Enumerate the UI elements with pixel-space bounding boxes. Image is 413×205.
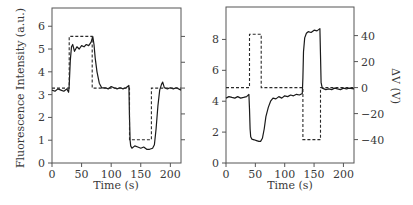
y-tick-label: 0 (212, 157, 219, 170)
x-tick-label: 200 (333, 168, 354, 181)
y-tick-label: 8 (212, 33, 219, 46)
right-y-ticks: 02468 (212, 33, 226, 170)
right-x-axis-label: Time (s) (267, 179, 313, 192)
y-tick-label: 0 (38, 157, 45, 170)
left-y-axis-label: Fluorescence Intensity (a.u.) (14, 8, 27, 168)
left-x-axis-label: Time (s) (93, 179, 139, 192)
y-tick-label: 4 (38, 66, 45, 79)
y-tick-label: 2 (212, 126, 219, 139)
right-y2-axis-label: ΔV (V) (389, 68, 402, 104)
y-tick-label: 1 (38, 134, 45, 147)
fluorescence-trace-line (52, 37, 181, 150)
y-tick-label: 3 (38, 89, 45, 102)
y-tick-label: 4 (212, 95, 219, 108)
right-y2-ticks: −40−2002040 (354, 30, 384, 147)
chart-canvas: 0123456 050100150200 Time (s) Fluorescen… (0, 0, 413, 205)
left-plot-lines (52, 36, 181, 149)
y2-tick-label: −40 (361, 134, 384, 147)
y2-tick-label: 0 (361, 82, 368, 95)
y-tick-label: 5 (38, 43, 45, 56)
x-tick-label: 50 (248, 168, 262, 181)
x-tick-label: 200 (160, 168, 181, 181)
left-panel: 0123456 050100150200 Time (s) Fluorescen… (14, 8, 185, 192)
x-tick-label: 50 (75, 168, 89, 181)
right-plot-frame (226, 7, 354, 163)
y-tick-label: 6 (38, 20, 45, 33)
y2-tick-label: 40 (361, 30, 375, 43)
x-tick-label: 0 (223, 168, 230, 181)
left-y-ticks: 0123456 (38, 20, 52, 170)
y-tick-label: 6 (212, 64, 219, 77)
right-panel: 02468 −40−2002040 050100150200 Time (s) … (212, 7, 402, 192)
figure: 0123456 050100150200 Time (s) Fluorescen… (0, 0, 413, 205)
fluorescence-trace-line (226, 29, 354, 142)
voltage-step-line (226, 34, 354, 139)
y2-tick-label: 20 (361, 56, 375, 69)
y2-tick-label: −20 (361, 108, 384, 121)
y-tick-label: 2 (38, 111, 45, 124)
right-plot-lines (226, 29, 354, 142)
left-y2-ticks (181, 36, 185, 139)
x-tick-label: 0 (49, 168, 56, 181)
